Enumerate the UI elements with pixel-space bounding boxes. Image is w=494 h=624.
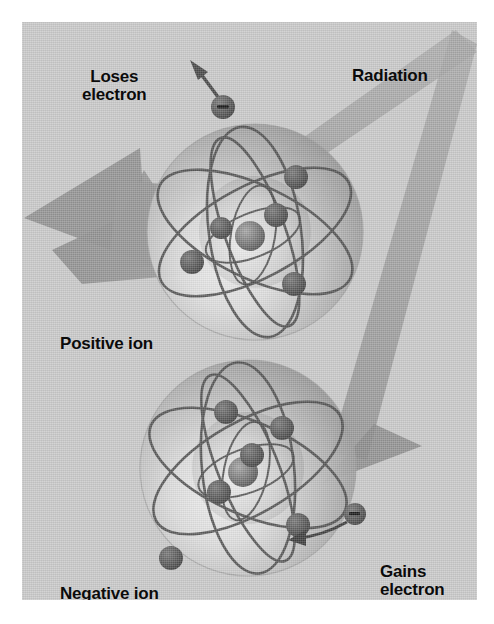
electron [264, 203, 288, 227]
label-radiation: Radiation [352, 67, 428, 85]
label-positive-ion: Positive ion [60, 335, 153, 353]
minus-sign-icon [349, 512, 360, 515]
label-loses-electron: Loses electron [82, 68, 147, 105]
escaping-electron-group [190, 60, 235, 119]
electron [284, 165, 308, 189]
label-gains-electron: Gains electron [380, 563, 445, 600]
electron [214, 400, 238, 424]
diagram-artwork [22, 22, 477, 600]
minus-sign-icon [217, 105, 229, 108]
diagram-panel: Loses electron Radiation Positive ion Ne… [22, 22, 477, 600]
electron [286, 513, 310, 537]
ionization-diagram: Loses electron Radiation Positive ion Ne… [0, 0, 494, 624]
electron [180, 250, 204, 274]
negative-ion-atom [132, 358, 363, 578]
electron [270, 416, 294, 440]
electron [282, 272, 306, 296]
positive-ion-atom [140, 121, 371, 344]
label-negative-ion: Negative ion [60, 585, 159, 600]
electron [210, 217, 232, 239]
electron [159, 546, 183, 570]
electron [240, 443, 264, 467]
nucleus-upper [235, 221, 265, 251]
electron [207, 480, 231, 504]
